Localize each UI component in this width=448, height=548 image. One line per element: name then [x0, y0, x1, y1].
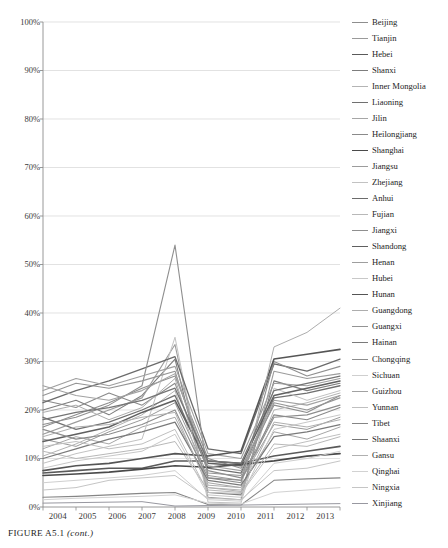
- legend-line-swatch-icon: [352, 198, 368, 199]
- x-axis-tick-label: 2007: [132, 511, 162, 529]
- legend-line-swatch-icon: [352, 54, 368, 55]
- legend-item-zhejiang[interactable]: Zhejiang: [352, 174, 448, 190]
- legend-item-label: Inner Mongolia: [372, 82, 426, 91]
- x-axis-tick-label: 2010: [221, 511, 251, 529]
- legend-item-hebei[interactable]: Hebei: [352, 46, 448, 62]
- legend-item-label: Tibet: [372, 419, 390, 428]
- x-axis-tick-label: 2008: [162, 511, 192, 529]
- figure-caption: FIGURE A5.1 (cont.): [8, 528, 93, 538]
- series-line-jiangxi: [43, 245, 340, 483]
- legend-item-hunan[interactable]: Hunan: [352, 287, 448, 303]
- legend-item-shaanxi[interactable]: Shaanxi: [352, 431, 448, 447]
- legend-item-qinghai[interactable]: Qinghai: [352, 463, 448, 479]
- legend-item-tibet[interactable]: Tibet: [352, 415, 448, 431]
- legend-item-label: Jilin: [372, 114, 387, 123]
- legend-line-swatch-icon: [352, 150, 368, 151]
- legend-item-label: Shanghai: [372, 146, 404, 155]
- legend-line-swatch-icon: [352, 471, 368, 472]
- legend: BeijingTianjinHebeiShanxiInner MongoliaL…: [352, 14, 448, 511]
- x-axis-tick-label: 2004: [43, 511, 73, 529]
- legend-item-shanxi[interactable]: Shanxi: [352, 62, 448, 78]
- legend-item-label: Yunnan: [372, 403, 398, 412]
- legend-line-swatch-icon: [352, 134, 368, 135]
- legend-item-guangdong[interactable]: Guangdong: [352, 303, 448, 319]
- legend-item-jiangsu[interactable]: Jiangsu: [352, 158, 448, 174]
- figure-a5-1: 100%90%80%70%60%50%40%30%20%10%0% 200420…: [0, 0, 448, 548]
- legend-item-label: Sichuan: [372, 371, 400, 380]
- x-axis-tick-label: 2011: [251, 511, 281, 529]
- legend-item-label: Shanxi: [372, 66, 396, 75]
- legend-item-label: Hainan: [372, 338, 397, 347]
- series-lines: [43, 245, 340, 506]
- legend-item-label: Guizhou: [372, 387, 402, 396]
- legend-line-swatch-icon: [352, 262, 368, 263]
- legend-item-gansu[interactable]: Gansu: [352, 447, 448, 463]
- legend-item-xinjiang[interactable]: Xinjiang: [352, 495, 448, 511]
- legend-line-swatch-icon: [352, 38, 368, 39]
- legend-item-inner-mongolia[interactable]: Inner Mongolia: [352, 78, 448, 94]
- legend-item-sichuan[interactable]: Sichuan: [352, 367, 448, 383]
- legend-item-label: Shandong: [372, 242, 406, 251]
- legend-line-swatch-icon: [352, 310, 368, 311]
- legend-item-label: Hunan: [372, 290, 395, 299]
- legend-item-yunnan[interactable]: Yunnan: [352, 399, 448, 415]
- y-axis-labels: 100%90%80%70%60%50%40%30%20%10%0%: [2, 0, 40, 520]
- axis-lines: [40, 22, 341, 511]
- legend-item-jiangxi[interactable]: Jiangxi: [352, 223, 448, 239]
- legend-item-tianjin[interactable]: Tianjin: [352, 30, 448, 46]
- legend-line-swatch-icon: [352, 455, 368, 456]
- legend-line-swatch-icon: [352, 230, 368, 231]
- legend-line-swatch-icon: [352, 407, 368, 408]
- y-axis-tick-label: 70%: [6, 163, 40, 172]
- series-line-xinjiang: [43, 502, 340, 506]
- x-axis-tick-label: 2006: [102, 511, 132, 529]
- legend-item-label: Shaanxi: [372, 435, 400, 444]
- legend-line-swatch-icon: [352, 439, 368, 440]
- x-axis-tick-label: 2005: [73, 511, 103, 529]
- y-axis-tick-label: 0%: [6, 503, 40, 512]
- legend-item-guangxi[interactable]: Guangxi: [352, 319, 448, 335]
- legend-item-liaoning[interactable]: Liaoning: [352, 94, 448, 110]
- legend-line-swatch-icon: [352, 342, 368, 343]
- legend-line-swatch-icon: [352, 503, 368, 504]
- x-axis-tick-label: 2009: [192, 511, 222, 529]
- legend-line-swatch-icon: [352, 423, 368, 424]
- legend-item-shanghai[interactable]: Shanghai: [352, 142, 448, 158]
- legend-item-guizhou[interactable]: Guizhou: [352, 383, 448, 399]
- legend-item-label: Beijing: [372, 18, 397, 27]
- caption-continued: (cont.): [67, 528, 93, 538]
- legend-item-label: Henan: [372, 258, 394, 267]
- legend-item-label: Chongqing: [372, 355, 410, 364]
- legend-item-label: Hubei: [372, 274, 393, 283]
- legend-item-henan[interactable]: Henan: [352, 255, 448, 271]
- legend-item-anhui[interactable]: Anhui: [352, 191, 448, 207]
- legend-item-hainan[interactable]: Hainan: [352, 335, 448, 351]
- legend-item-heilongjiang[interactable]: Heilongjiang: [352, 126, 448, 142]
- y-axis-tick-label: 90%: [6, 66, 40, 75]
- legend-item-ningxia[interactable]: Ningxia: [352, 479, 448, 495]
- legend-line-swatch-icon: [352, 86, 368, 87]
- legend-line-swatch-icon: [352, 102, 368, 103]
- line-chart-svg: [0, 0, 350, 520]
- legend-line-swatch-icon: [352, 166, 368, 167]
- x-axis-tick-label: 2012: [281, 511, 311, 529]
- chart-plot-area: 100%90%80%70%60%50%40%30%20%10%0% 200420…: [0, 0, 350, 520]
- legend-line-swatch-icon: [352, 359, 368, 360]
- legend-item-shandong[interactable]: Shandong: [352, 239, 448, 255]
- legend-item-label: Jiangxi: [372, 226, 397, 235]
- x-axis-labels: 2004200520062007200820092010201120122013: [43, 511, 340, 529]
- legend-item-chongqing[interactable]: Chongqing: [352, 351, 448, 367]
- legend-item-label: Zhejiang: [372, 178, 403, 187]
- legend-item-jilin[interactable]: Jilin: [352, 110, 448, 126]
- y-axis-tick-label: 20%: [6, 406, 40, 415]
- legend-item-label: Qinghai: [372, 467, 400, 476]
- legend-line-swatch-icon: [352, 214, 368, 215]
- legend-line-swatch-icon: [352, 391, 368, 392]
- legend-item-fujian[interactable]: Fujian: [352, 207, 448, 223]
- legend-item-beijing[interactable]: Beijing: [352, 14, 448, 30]
- legend-line-swatch-icon: [352, 294, 368, 295]
- x-axis-tick-label: 2013: [310, 511, 340, 529]
- legend-line-swatch-icon: [352, 118, 368, 119]
- legend-item-hubei[interactable]: Hubei: [352, 271, 448, 287]
- legend-item-label: Anhui: [372, 194, 393, 203]
